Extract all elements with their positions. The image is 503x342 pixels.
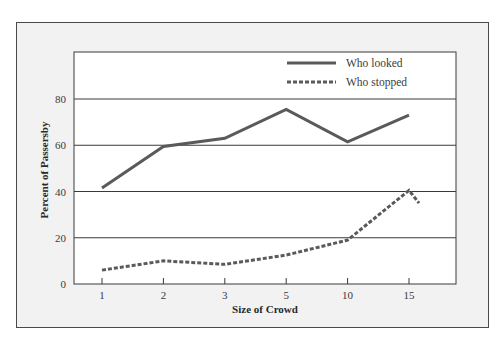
y-tick-label: 40: [55, 186, 67, 198]
x-tick-label: 3: [222, 289, 228, 301]
y-tick-label: 0: [61, 278, 67, 290]
line-chart: 020406080 12351015 Who looked Who stoppe…: [0, 0, 503, 342]
x-tick-label: 2: [161, 289, 167, 301]
y-tick-label: 20: [55, 232, 67, 244]
legend-label-looked: Who looked: [346, 57, 403, 69]
x-tick-label: 15: [404, 289, 416, 301]
x-tick-label: 10: [342, 289, 354, 301]
y-tick-label: 60: [55, 139, 67, 151]
legend-label-stopped: Who stopped: [346, 76, 407, 89]
y-tick-label: 80: [55, 93, 67, 105]
x-tick-label: 1: [99, 289, 105, 301]
x-tick-label: 5: [283, 289, 289, 301]
y-axis-ticks: 020406080: [55, 93, 67, 290]
x-axis-title: Size of Crowd: [232, 303, 298, 315]
y-axis-title: Percent of Passersby: [38, 121, 50, 218]
